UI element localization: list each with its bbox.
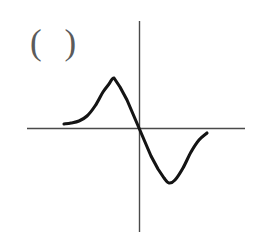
function-curve [64,78,207,183]
figure-canvas: ( ) [0,0,255,239]
figure-label: ( ) [30,24,83,62]
